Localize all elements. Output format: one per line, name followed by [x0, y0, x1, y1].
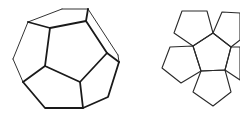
- net-face: [162, 46, 201, 83]
- dodecahedron-solid: [13, 9, 119, 108]
- net-face: [174, 11, 213, 46]
- front-outer-edge: [23, 62, 119, 108]
- edge: [13, 22, 28, 59]
- net-face: [193, 70, 231, 106]
- edge: [13, 59, 23, 82]
- net-face: [225, 47, 240, 80]
- net-face: [213, 12, 240, 47]
- edge: [23, 66, 45, 82]
- dodecahedron-net: [162, 11, 240, 106]
- edge: [28, 22, 50, 28]
- dodecahedron-figure: [0, 0, 240, 120]
- edge: [80, 82, 83, 108]
- edge: [28, 9, 62, 22]
- front-face: [45, 21, 107, 82]
- edge: [86, 9, 88, 21]
